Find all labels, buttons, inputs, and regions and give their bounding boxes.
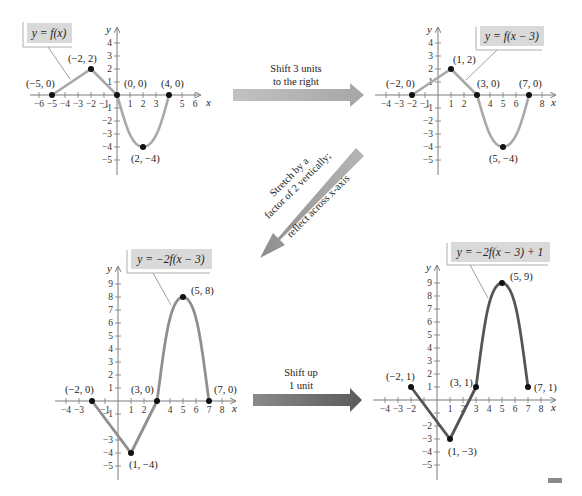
- right-arrow-icon: [253, 388, 362, 412]
- x-tick: −3: [73, 99, 83, 109]
- x-tick: 6: [514, 99, 519, 109]
- y-tick: 6: [108, 318, 113, 328]
- equation-label: y = −2f(x − 3): [127, 249, 212, 305]
- y-tick: −4: [423, 142, 433, 152]
- x-tick: 5: [501, 99, 506, 109]
- transform-text: Shift up: [284, 367, 318, 378]
- point-label: (2, −4): [131, 153, 160, 165]
- transformation-diagram: −6 −5 −4 −3 −2 −1 1 2 3 5 6 x 4 3 2: [0, 0, 582, 496]
- x-tick: 1: [128, 99, 133, 109]
- point-label: (−5, 0): [26, 78, 55, 90]
- transform-text: 1 unit: [289, 380, 313, 391]
- y-axis-label: y: [106, 262, 112, 274]
- x-tick: 1: [448, 404, 453, 414]
- y-tick: −5: [103, 461, 113, 471]
- y-axis-label: y: [425, 261, 431, 273]
- point-label: (−2, 2): [68, 53, 97, 65]
- x-tick: 4: [488, 99, 493, 109]
- point-label: (7, 1): [534, 382, 557, 394]
- x-tick: 6: [193, 99, 198, 109]
- transform-text: to the right: [273, 76, 319, 87]
- x-tick: −6: [34, 99, 44, 109]
- x-tick: 6: [194, 405, 199, 415]
- arrow-stretch-reflect: Stretch by a factor of 2 vertically; ref…: [254, 142, 364, 258]
- x-axis-label: x: [231, 402, 237, 414]
- y-tick: −1: [102, 103, 112, 113]
- x-tick: 5: [500, 404, 505, 414]
- point-label: (7, 0): [519, 78, 542, 90]
- y-tick: 8: [427, 291, 432, 301]
- y-tick: −4: [422, 447, 432, 457]
- x-tick: −3: [74, 405, 84, 415]
- y-tick: 3: [428, 51, 433, 61]
- equation-text: y = −2f(x − 3): [136, 253, 205, 266]
- y-tick: 2: [107, 64, 112, 74]
- x-tick: 3: [154, 99, 159, 109]
- y-tick: −4: [102, 142, 112, 152]
- y-tick: −5: [102, 155, 112, 165]
- x-tick: 6: [513, 404, 518, 414]
- y-tick: 2: [428, 64, 433, 74]
- x-tick: 1: [449, 99, 454, 109]
- y-tick: 1: [427, 382, 432, 392]
- y-tick: −3: [423, 129, 433, 139]
- x-tick: 8: [220, 405, 225, 415]
- y-tick: 6: [427, 317, 432, 327]
- point-label: (3, 0): [477, 78, 500, 90]
- x-tick: 7: [526, 404, 531, 414]
- equation-label: y = f(x − 3): [466, 26, 544, 80]
- y-tick: 4: [427, 343, 432, 353]
- y-axis-label: y: [426, 23, 432, 35]
- y-tick: −2: [102, 116, 112, 126]
- x-tick: 4: [168, 405, 173, 415]
- x-tick: 5: [180, 99, 185, 109]
- transform-text: Shift 3 units: [270, 63, 321, 74]
- x-tick: 2: [141, 99, 146, 109]
- x-tick: 7: [207, 405, 212, 415]
- y-tick: −2: [422, 421, 432, 431]
- y-tick: 9: [108, 279, 113, 289]
- y-tick: 2: [427, 369, 432, 379]
- y-tick: 3: [108, 357, 113, 367]
- x-tick: −2: [406, 404, 416, 414]
- graph-1: −6 −5 −4 −3 −2 −1 1 2 3 5 6 x 4 3 2: [23, 22, 211, 175]
- x-tick: 4: [487, 404, 492, 414]
- y-tick: 9: [427, 278, 432, 288]
- point-label: (1, −4): [129, 459, 158, 471]
- y-axis-label: y: [105, 23, 111, 35]
- y-tick: 7: [427, 304, 432, 314]
- y-tick: 7: [108, 305, 113, 315]
- arrow-shift-right: Shift 3 units to the right: [233, 63, 364, 107]
- x-tick: −5: [47, 99, 57, 109]
- x-tick: 1: [129, 405, 134, 415]
- x-axis-label: x: [205, 96, 211, 108]
- x-tick: −3: [393, 404, 403, 414]
- point-label: (1, −3): [448, 446, 477, 458]
- x-tick: 3: [474, 404, 479, 414]
- y-tick: 8: [108, 292, 113, 302]
- point-label: (4, 0): [161, 78, 184, 90]
- x-tick: −4: [60, 99, 70, 109]
- y-axis: 9 8 7 6 5 4 3 2 1 −2 −3 −4 −5 y: [422, 261, 440, 480]
- x-tick: −4: [61, 405, 71, 415]
- graph-3: −4 −3 −1 1 2 4 5 6 7 8 x 9 8: [55, 249, 237, 480]
- x-tick: −2: [86, 99, 96, 109]
- end-marker-icon: [548, 478, 562, 483]
- x-tick: 8: [539, 404, 544, 414]
- y-tick: 2: [108, 370, 113, 380]
- y-tick: 3: [427, 356, 432, 366]
- x-tick: 5: [181, 405, 186, 415]
- point-label: (5, 9): [510, 271, 533, 283]
- x-tick: 2: [142, 405, 147, 415]
- point-label: (7, 0): [214, 384, 237, 396]
- x-tick: −4: [380, 404, 390, 414]
- point-label: (−2, 0): [386, 78, 415, 90]
- arrow-shift-up: Shift up 1 unit: [253, 367, 362, 412]
- equation-text: y = −2f(x − 3) + 1: [456, 246, 544, 259]
- y-tick: 5: [108, 331, 113, 341]
- x-tick: −2: [407, 99, 417, 109]
- graph-4: −4 −3 −2 1 2 3 4 5 6 7 8 x 9: [373, 242, 557, 480]
- point-label: (3, 0): [131, 384, 154, 396]
- x-tick: −4: [381, 99, 391, 109]
- x-tick: 2: [462, 99, 467, 109]
